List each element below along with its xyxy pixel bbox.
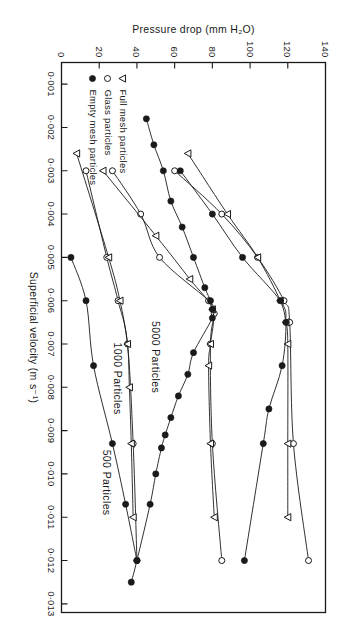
filled-circle-marker — [152, 470, 158, 476]
open-circle-marker — [109, 167, 115, 173]
filled-circle-marker — [190, 254, 196, 260]
filled-circle-marker — [162, 431, 168, 437]
filled-circle-marker — [89, 75, 95, 81]
series-line — [180, 170, 286, 560]
filled-circle-marker — [160, 167, 166, 173]
filled-circle-marker — [67, 254, 73, 260]
filled-circle-marker — [265, 405, 271, 411]
open-triangle-down-marker — [118, 74, 125, 81]
chart-legend: Full mesh particlesGlass particlesEmpty … — [87, 74, 128, 184]
filled-circle-marker — [179, 223, 185, 229]
filled-circle-marker — [82, 297, 88, 303]
y-tick-label: 140 — [320, 41, 331, 57]
open-triangle-down-marker — [206, 440, 213, 447]
open-triangle-down-marker — [186, 275, 193, 282]
filled-circle-marker — [175, 392, 181, 398]
x-tick-label: 0·010 — [45, 461, 56, 486]
filled-circle-marker — [90, 362, 96, 368]
filled-circle-marker — [209, 314, 215, 320]
open-circle-marker — [156, 254, 162, 260]
y-axis-title: Pressure drop (mm H₂O) — [132, 22, 255, 34]
y-tick-label: 0 — [56, 52, 67, 57]
series-5000-particles-glass-particles — [171, 167, 311, 563]
x-tick-label: 0·007 — [45, 331, 56, 356]
filled-circle-marker — [133, 557, 139, 563]
filled-circle-marker — [167, 414, 173, 420]
x-tick-label: 0·008 — [45, 374, 56, 399]
filled-circle-marker — [241, 557, 247, 563]
series-group-label-5000: 5000 Particles — [150, 320, 162, 392]
y-tick-label: 20 — [93, 46, 104, 57]
filled-circle-marker — [167, 197, 173, 203]
filled-circle-marker — [279, 362, 285, 368]
filled-circle-marker — [190, 349, 196, 355]
open-triangle-down-marker — [129, 513, 136, 520]
filled-circle-marker — [282, 319, 288, 325]
x-tick-label: 0·013 — [45, 591, 56, 616]
filled-circle-marker — [209, 210, 215, 216]
x-tick-label: 0·011 — [45, 504, 56, 529]
open-triangle-down-marker — [72, 149, 79, 156]
y-tick-label: 80 — [206, 46, 217, 57]
x-tick-label: 0·006 — [45, 288, 56, 313]
filled-circle-marker — [158, 444, 164, 450]
y-axis-ticks: 020406080100120140 — [56, 41, 331, 68]
open-circle-marker — [171, 167, 177, 173]
filled-circle-marker — [122, 501, 128, 507]
filled-circle-marker — [260, 440, 266, 446]
x-tick-label: 0·004 — [45, 201, 56, 226]
figure-rotation-wrapper: 0·0010·0020·0030·0040·0050·0060·0070·008… — [0, 0, 343, 632]
open-triangle-down-marker — [125, 383, 132, 390]
series-5000-particles-empty-mesh-particles — [177, 167, 289, 563]
x-tick-label: 0·009 — [45, 417, 56, 442]
y-tick-label: 60 — [169, 46, 180, 57]
open-triangle-down-marker — [99, 167, 106, 174]
series-500-particles-empty-mesh-particles — [67, 254, 139, 563]
y-tick-label: 40 — [131, 46, 142, 57]
x-axis-ticks: 0·0010·0020·0030·0040·0050·0060·0070·008… — [45, 71, 67, 616]
series-1000-particles-empty-mesh-particles — [128, 115, 215, 585]
x-tick-label: 0·005 — [45, 244, 56, 269]
x-tick-label: 0·002 — [45, 114, 56, 139]
open-triangle-down-marker — [204, 362, 211, 369]
series-group-label-1000: 1000 Particles — [112, 342, 124, 414]
scanned-figure: 0·0010·0020·0030·0040·0050·0060·0070·008… — [0, 0, 343, 632]
chart-plot-area: 0·0010·0020·0030·0040·0050·0060·0070·008… — [0, 0, 343, 632]
filled-circle-marker — [150, 141, 156, 147]
open-triangle-down-marker — [210, 513, 217, 520]
series-line — [187, 153, 287, 517]
y-tick-label: 100 — [244, 41, 255, 57]
open-triangle-down-marker — [152, 232, 159, 239]
filled-circle-marker — [177, 167, 183, 173]
legend-label-2: Empty mesh particles — [87, 89, 98, 185]
series-5000-particles-full-mesh-particles — [184, 149, 291, 520]
series-line — [131, 118, 214, 581]
open-triangle-down-marker — [127, 440, 134, 447]
filled-circle-marker — [147, 501, 153, 507]
filled-circle-marker — [239, 254, 245, 260]
y-tick-label: 120 — [282, 41, 293, 57]
x-tick-label: 0·003 — [45, 158, 56, 183]
filled-circle-marker — [109, 440, 115, 446]
open-triangle-down-marker — [284, 513, 291, 520]
legend-label-0: Full mesh particles — [117, 89, 128, 173]
filled-circle-marker — [128, 579, 134, 585]
x-tick-label: 0·012 — [45, 547, 56, 572]
open-triangle-down-marker — [284, 440, 291, 447]
filled-circle-marker — [184, 371, 190, 377]
open-triangle-down-marker — [184, 149, 191, 156]
series-group-label-500: 500 Particles — [100, 449, 112, 515]
chart-canvas: 0·0010·0020·0030·0040·0050·0060·0070·008… — [0, 0, 343, 632]
legend-label-1: Glass particles — [102, 89, 113, 155]
filled-circle-marker — [209, 306, 215, 312]
filled-circle-marker — [201, 284, 207, 290]
open-circle-marker — [104, 75, 110, 81]
series-annotations: 5000 Particles1000 Particles500 Particle… — [100, 320, 161, 515]
open-circle-marker — [218, 557, 224, 563]
x-tick-label: 0·001 — [45, 71, 56, 96]
filled-circle-marker — [277, 297, 283, 303]
x-axis-title: Superficial velocity (m s⁻¹) — [27, 271, 39, 403]
open-circle-marker — [305, 557, 311, 563]
filled-circle-marker — [143, 115, 149, 121]
